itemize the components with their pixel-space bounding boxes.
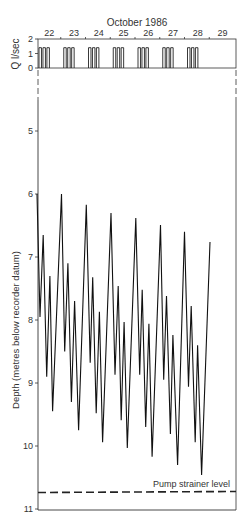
pumping-pulse <box>96 48 98 68</box>
pumping-pulse <box>163 48 165 68</box>
pumping-pulse <box>92 48 94 68</box>
pump-strainer-label: Pump strainer level <box>153 479 230 489</box>
pumping-pulse <box>47 48 49 68</box>
water-level-line <box>37 194 210 475</box>
day-label: 22 <box>44 28 54 38</box>
pumping-test-chart: October 1986 2223242526272829 012 Q l/se… <box>0 0 250 525</box>
depth-y-axis: 567891011 <box>23 126 38 514</box>
discharge-axis-label: Q l/sec <box>10 38 21 69</box>
pumping-pulse <box>188 48 190 68</box>
discharge-panel: October 1986 2223242526272829 012 Q l/se… <box>10 17 236 73</box>
pumping-pulse <box>72 48 74 68</box>
day-label: 27 <box>168 28 178 38</box>
day-label: 24 <box>94 28 104 38</box>
day-label: 23 <box>69 28 79 38</box>
pumping-pulse <box>146 48 148 68</box>
y-tick-label: 5 <box>28 126 33 136</box>
month-title: October 1986 <box>107 17 168 28</box>
day-label: 29 <box>217 28 227 38</box>
discharge-bars <box>39 48 198 68</box>
pumping-pulse <box>171 48 173 68</box>
pumping-pulse <box>64 48 66 68</box>
pumping-pulse <box>117 48 119 68</box>
depth-axis-label: Depth (metres below recorder datum) <box>10 251 21 409</box>
y-tick-label: 0 <box>28 63 33 73</box>
pumping-pulse <box>191 48 193 68</box>
day-label: 28 <box>193 28 203 38</box>
day-label: 26 <box>143 28 153 38</box>
y-tick-label: 8 <box>28 315 33 325</box>
pumping-pulse <box>167 48 169 68</box>
day-labels: 2223242526272829 <box>44 28 227 39</box>
pumping-pulse <box>39 48 41 68</box>
discharge-y-axis: 012 <box>28 34 38 73</box>
y-tick-label: 9 <box>28 378 33 388</box>
pumping-pulse <box>89 48 91 68</box>
pumping-pulse <box>113 48 115 68</box>
y-tick-label: 1 <box>28 49 33 59</box>
pumping-pulse <box>121 48 123 68</box>
pumping-pulse <box>195 48 197 68</box>
y-tick-label: 7 <box>28 252 33 262</box>
y-tick-label: 11 <box>24 504 33 514</box>
depth-panel: 567891011 Pump strainer level Depth (met… <box>10 70 236 514</box>
y-tick-label: 6 <box>28 189 33 199</box>
pump-strainer-line <box>38 491 236 492</box>
pumping-pulse <box>43 48 45 68</box>
y-tick-label: 10 <box>23 441 33 451</box>
pumping-pulse <box>138 48 140 68</box>
pumping-pulse <box>142 48 144 68</box>
y-tick-label: 2 <box>28 34 33 44</box>
day-label: 25 <box>118 28 128 38</box>
pumping-pulse <box>68 48 70 68</box>
